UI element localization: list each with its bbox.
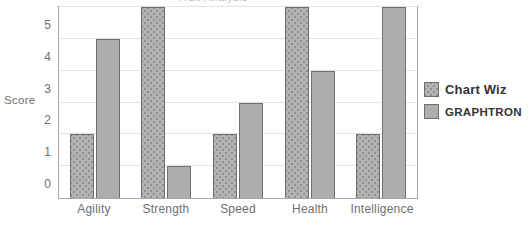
legend: Chart WizGRAPHTRON: [424, 80, 522, 124]
x-axis-tick-label: Speed: [202, 202, 274, 216]
bar[interactable]: [70, 134, 94, 198]
legend-swatch-icon: [424, 82, 439, 97]
x-axis-tick-label: Health: [274, 202, 346, 216]
bar[interactable]: [96, 39, 120, 198]
x-axis-ticks: AgilityStrengthSpeedHealthIntelligence: [58, 202, 418, 216]
bar[interactable]: [285, 7, 309, 198]
bar-group: [345, 7, 417, 198]
bar-chart: Trait Analysis Score 0123456 AgilityStre…: [0, 0, 530, 243]
legend-item[interactable]: Chart Wiz: [424, 80, 522, 99]
legend-item[interactable]: GRAPHTRON: [424, 102, 522, 121]
bar-group: [202, 7, 274, 198]
bar[interactable]: [356, 134, 380, 198]
plot-area: 0123456: [58, 6, 418, 199]
y-axis-tick-label: 0: [44, 177, 51, 191]
x-axis-tick-label: Intelligence: [346, 202, 418, 216]
bar-group: [274, 7, 346, 198]
bar[interactable]: [213, 134, 237, 198]
legend-item-label: GRAPHTRON: [445, 106, 522, 118]
bar[interactable]: [311, 71, 335, 198]
bar[interactable]: [382, 7, 406, 198]
chart-title: Trait Analysis: [0, 0, 425, 3]
bar-group: [131, 7, 203, 198]
x-axis-tick-label: Agility: [58, 202, 130, 216]
legend-swatch-icon: [424, 104, 439, 119]
bar[interactable]: [141, 7, 165, 198]
y-axis-tick-label: 3: [44, 82, 51, 96]
y-axis-tick-label: 4: [44, 50, 51, 64]
y-axis-tick-label: 1: [44, 145, 51, 159]
y-axis-tick-label: 5: [44, 18, 51, 32]
y-axis-title: Score: [4, 94, 36, 106]
legend-item-label: Chart Wiz: [445, 82, 507, 97]
y-axis-tick-label: 2: [44, 113, 51, 127]
bar-group: [59, 7, 131, 198]
bars-layer: [59, 7, 417, 198]
bar[interactable]: [239, 103, 263, 199]
x-axis-tick-label: Strength: [130, 202, 202, 216]
bar[interactable]: [167, 166, 191, 198]
